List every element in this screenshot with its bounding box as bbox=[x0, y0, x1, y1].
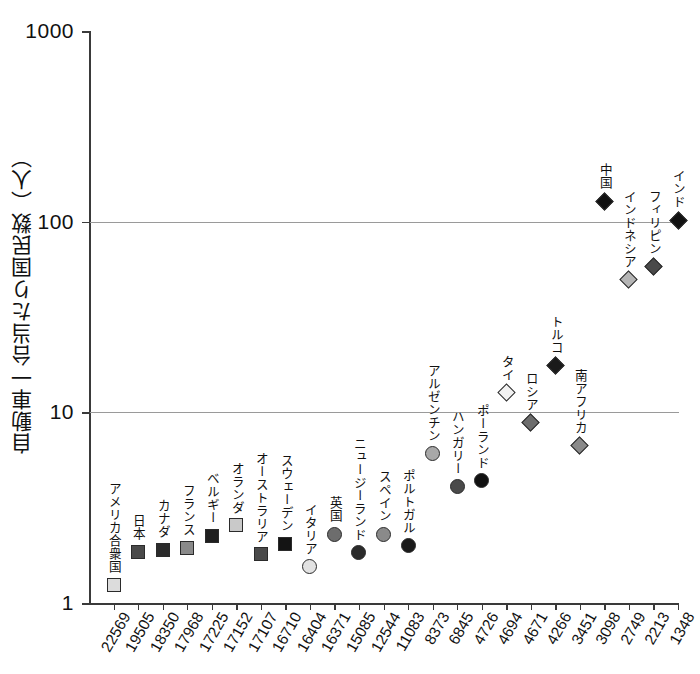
x-tick-4671 bbox=[531, 603, 532, 610]
data-point-marker bbox=[425, 446, 440, 461]
data-point-label: 英国 bbox=[327, 496, 340, 522]
data-point-marker bbox=[107, 578, 121, 592]
data-point-marker bbox=[156, 543, 170, 557]
x-tick-18350 bbox=[163, 603, 164, 610]
data-point-label: カナダ bbox=[156, 499, 169, 538]
data-point-marker bbox=[180, 541, 194, 555]
y-tick-10 bbox=[82, 412, 90, 414]
x-tick-17152 bbox=[236, 603, 237, 610]
y-axis-title: 自動車一台当たり国民数（人） bbox=[6, 0, 40, 600]
data-point-label: 南アフリカ bbox=[573, 369, 586, 434]
data-point-marker bbox=[669, 211, 687, 229]
data-point-label: フランス bbox=[180, 484, 193, 536]
x-tick-2749 bbox=[629, 603, 630, 610]
data-point-marker bbox=[571, 436, 589, 454]
data-point-marker bbox=[474, 473, 489, 488]
chart-figure: 自動車一台当たり国民数（人） 1000100101 22569195051835… bbox=[0, 0, 700, 674]
data-point-label: スウェーデン bbox=[278, 454, 291, 531]
data-point-marker bbox=[546, 357, 564, 375]
data-point-marker bbox=[620, 270, 638, 288]
gridline-100 bbox=[89, 222, 679, 223]
data-point-marker bbox=[229, 518, 243, 532]
data-point-label: ポーランド bbox=[475, 404, 488, 469]
x-tick-label-4726: 4726 bbox=[469, 609, 502, 648]
x-tick-label-1348: 1348 bbox=[666, 609, 699, 648]
data-point-label: インド bbox=[671, 169, 684, 208]
data-point-label: 中国 bbox=[597, 163, 610, 189]
data-point-label: タイ bbox=[499, 355, 512, 381]
data-point-label: フィリピン bbox=[646, 190, 659, 255]
y-tick-label-1000: 1000 bbox=[0, 20, 74, 41]
data-point-label: オーストラリア bbox=[254, 452, 267, 542]
x-tick-label-4671: 4671 bbox=[519, 609, 552, 648]
x-tick-1348 bbox=[678, 603, 679, 610]
data-point-label: アルゼンチン bbox=[426, 364, 439, 441]
y-axis-line bbox=[89, 31, 91, 604]
x-tick-19505 bbox=[138, 603, 139, 610]
x-tick-6845 bbox=[457, 603, 458, 610]
data-point-marker bbox=[497, 383, 515, 401]
data-point-label: ポルトガル bbox=[401, 469, 414, 534]
data-point-label: ニュージーランド bbox=[352, 437, 365, 540]
data-point-label: ハンガリー bbox=[450, 410, 463, 475]
x-tick-2213 bbox=[653, 603, 654, 610]
y-tick-1 bbox=[82, 603, 90, 605]
data-point-marker bbox=[522, 414, 540, 432]
data-point-marker bbox=[254, 547, 268, 561]
y-tick-1000 bbox=[82, 31, 90, 33]
y-tick-label-1: 1 bbox=[0, 592, 74, 613]
x-tick-16404 bbox=[310, 603, 311, 610]
y-tick-label-10: 10 bbox=[0, 401, 74, 422]
data-point-marker bbox=[450, 479, 465, 494]
data-point-marker bbox=[595, 192, 613, 210]
data-point-marker bbox=[278, 537, 292, 551]
data-point-label: ベルギー bbox=[205, 472, 218, 524]
x-tick-16710 bbox=[285, 603, 286, 610]
data-point-label: アメリカ合衆国 bbox=[107, 482, 120, 572]
x-tick-15085 bbox=[359, 603, 360, 610]
x-tick-label-3451: 3451 bbox=[568, 609, 601, 648]
x-tick-label-2213: 2213 bbox=[641, 609, 674, 648]
x-tick-16371 bbox=[334, 603, 335, 610]
y-tick-label-100: 100 bbox=[0, 211, 74, 232]
data-point-marker bbox=[327, 527, 342, 542]
x-tick-label-2749: 2749 bbox=[617, 609, 650, 648]
x-tick-label-3098: 3098 bbox=[592, 609, 625, 648]
x-tick-12544 bbox=[384, 603, 385, 610]
x-tick-label-8373: 8373 bbox=[420, 609, 453, 648]
x-tick-17225 bbox=[212, 603, 213, 610]
x-tick-4726 bbox=[482, 603, 483, 610]
x-tick-11083 bbox=[408, 603, 409, 610]
x-tick-label-4694: 4694 bbox=[494, 609, 527, 648]
data-point-label: イタリア bbox=[303, 503, 316, 555]
x-tick-3098 bbox=[604, 603, 605, 610]
x-tick-3451 bbox=[580, 603, 581, 610]
x-tick-22569 bbox=[114, 603, 115, 610]
data-point-label: インドネシア bbox=[622, 190, 635, 267]
x-tick-17968 bbox=[187, 603, 188, 610]
gridline-10 bbox=[89, 412, 679, 413]
x-tick-4694 bbox=[506, 603, 507, 610]
x-tick-4266 bbox=[555, 603, 556, 610]
data-point-marker bbox=[644, 258, 662, 276]
data-point-marker bbox=[351, 545, 366, 560]
data-point-label: ロシア bbox=[524, 372, 537, 411]
x-tick-label-4266: 4266 bbox=[543, 609, 576, 648]
data-point-label: スペイン bbox=[377, 470, 390, 522]
x-tick-8373 bbox=[433, 603, 434, 610]
data-point-label: 日本 bbox=[131, 514, 144, 540]
data-point-marker bbox=[401, 538, 416, 553]
data-point-marker bbox=[205, 529, 219, 543]
data-point-marker bbox=[302, 559, 317, 574]
y-tick-100 bbox=[82, 222, 90, 224]
data-point-label: オランダ bbox=[229, 462, 242, 514]
x-tick-17107 bbox=[261, 603, 262, 610]
data-point-marker bbox=[376, 527, 391, 542]
data-point-marker bbox=[131, 545, 145, 559]
data-point-label: トルコ bbox=[548, 315, 561, 354]
